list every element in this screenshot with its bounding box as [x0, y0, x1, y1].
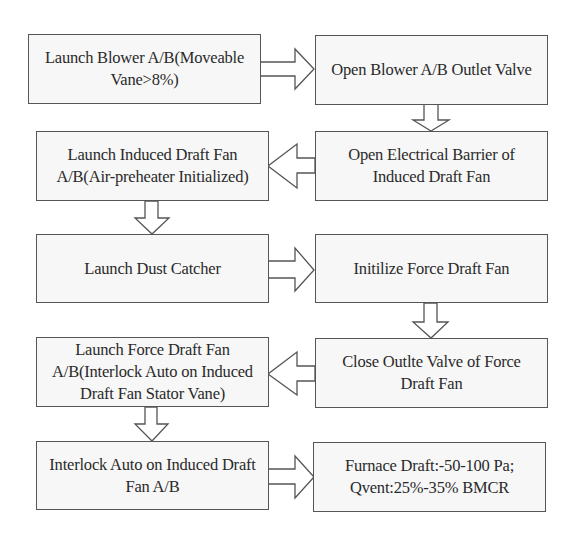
arrow-down-icon	[135, 407, 168, 441]
step-label: Launch Blower A/B(Moveable Vane>8%)	[37, 47, 252, 91]
arrow-right-icon	[260, 49, 314, 89]
step-launch-dust-catcher: Launch Dust Catcher	[36, 234, 269, 303]
step-label: Launch Dust Catcher	[84, 258, 220, 280]
step-label: Open Blower A/B Outlet Valve	[331, 59, 531, 81]
step-launch-force-draft-fan: Launch Force Draft Fan A/B(Interlock Aut…	[36, 337, 269, 407]
arrow-left-icon	[268, 352, 315, 395]
step-label: Launch Induced Draft Fan A/B(Air-preheat…	[45, 144, 260, 188]
step-open-electrical-barrier: Open Electrical Barrier of Induced Draft…	[315, 131, 548, 201]
step-launch-induced-draft-fan: Launch Induced Draft Fan A/B(Air-preheat…	[36, 131, 269, 201]
step-label: Interlock Auto on Induced Draft Fan A/B	[45, 454, 260, 498]
step-label: Initilize Force Draft Fan	[354, 258, 510, 280]
step-interlock-auto-induced-draft-fan: Interlock Auto on Induced Draft Fan A/B	[36, 441, 269, 510]
arrow-right-icon	[268, 456, 314, 498]
step-close-outlet-valve-force-draft-fan: Close Outlte Valve of Force Draft Fan	[315, 338, 548, 408]
step-label: Furnace Draft:-50-100 Pa; Qvent:25%-35% …	[322, 455, 537, 499]
arrow-down-icon	[413, 303, 448, 338]
step-label: Open Electrical Barrier of Induced Draft…	[324, 144, 539, 188]
step-launch-blower: Launch Blower A/B(Moveable Vane>8%)	[28, 34, 261, 104]
step-label: Close Outlte Valve of Force Draft Fan	[324, 351, 539, 395]
step-furnace-draft-result: Furnace Draft:-50-100 Pa; Qvent:25%-35% …	[313, 442, 546, 512]
arrow-down-icon	[413, 104, 449, 131]
arrow-left-icon	[268, 144, 315, 188]
step-label: Launch Force Draft Fan A/B(Interlock Aut…	[45, 339, 260, 405]
flowchart: Launch Blower A/B(Moveable Vane>8%) Open…	[0, 0, 578, 536]
step-initialize-force-draft-fan: Initilize Force Draft Fan	[315, 234, 548, 303]
arrow-right-icon	[268, 248, 314, 291]
step-open-blower-outlet-valve: Open Blower A/B Outlet Valve	[315, 35, 548, 105]
arrow-down-icon	[135, 201, 169, 234]
